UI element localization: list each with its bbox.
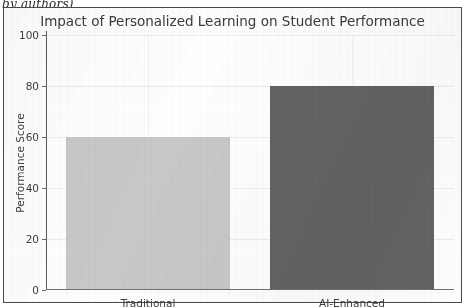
y-axis-tick-label: 80 xyxy=(26,80,39,92)
y-axis-tick-label: 100 xyxy=(19,29,39,41)
bar-traditional xyxy=(66,137,229,290)
y-axis-tick-label: 0 xyxy=(32,284,39,296)
bar-ai-enhanced xyxy=(270,86,433,290)
y-axis-spine xyxy=(46,31,47,290)
figure-frame: Impact of Personalized Learning on Stude… xyxy=(3,7,462,303)
x-axis-tick-label: AI-Enhanced xyxy=(319,297,385,308)
y-axis-tick-label: 20 xyxy=(26,233,39,245)
y-axis-tick-label: 60 xyxy=(26,131,39,143)
y-axis-label-text: Performance Score xyxy=(14,113,26,212)
plot-area: 020406080100 TraditionalAI-Enhanced xyxy=(46,35,454,290)
chart-title: Impact of Personalized Learning on Stude… xyxy=(4,13,461,29)
y-axis-label: Performance Score xyxy=(13,35,27,290)
gridline xyxy=(46,35,454,36)
y-axis-tick-mark xyxy=(42,290,46,291)
x-axis-tick-label: Traditional xyxy=(121,297,176,308)
y-axis-tick-label: 40 xyxy=(26,182,39,194)
x-axis-spine xyxy=(46,289,454,290)
